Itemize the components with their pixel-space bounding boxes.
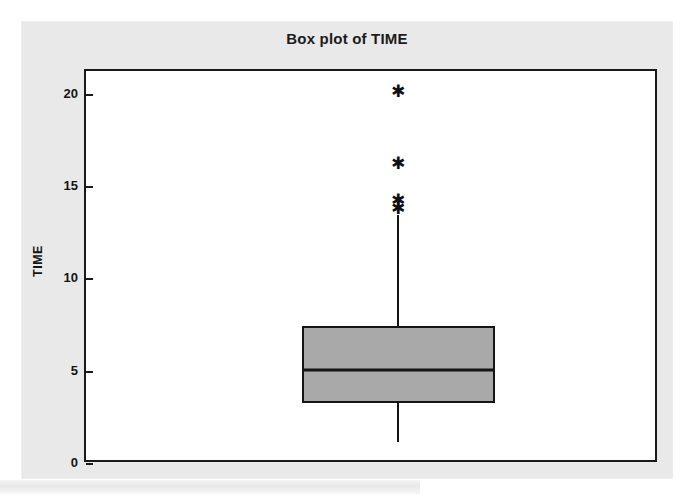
whisker-upper — [397, 215, 399, 326]
whisker-lower — [397, 403, 399, 442]
median-line — [302, 368, 495, 371]
box-iqr-rect — [302, 326, 495, 403]
y-tick-label-5: 5 — [44, 362, 78, 377]
plot-area: ✱✱✱✱ — [86, 71, 655, 460]
outlier-asterisk-icon: ✱ — [391, 192, 405, 209]
y-tick-mark — [86, 463, 93, 465]
y-tick-mark — [86, 186, 93, 188]
outlier-asterisk-icon: ✱ — [391, 83, 405, 100]
y-tick-label-15: 15 — [44, 178, 78, 193]
y-tick-label-0: 0 — [44, 455, 78, 470]
y-tick-mark — [86, 371, 93, 373]
y-tick-label-10: 10 — [44, 270, 78, 285]
screenshot-page: Box plot of TIME TIME 05101520 ✱✱✱✱ — [0, 0, 685, 497]
y-tick-mark — [86, 94, 93, 96]
outlier-asterisk-icon: ✱ — [391, 155, 405, 172]
scan-artifact-band — [0, 480, 420, 494]
y-axis-label: TIME — [31, 231, 45, 291]
y-tick-label-20: 20 — [44, 85, 78, 100]
plot-frame: ✱✱✱✱ — [84, 69, 657, 462]
chart-panel: Box plot of TIME TIME 05101520 ✱✱✱✱ — [22, 22, 672, 478]
chart-title: Box plot of TIME — [22, 30, 672, 47]
y-tick-mark — [86, 278, 93, 280]
